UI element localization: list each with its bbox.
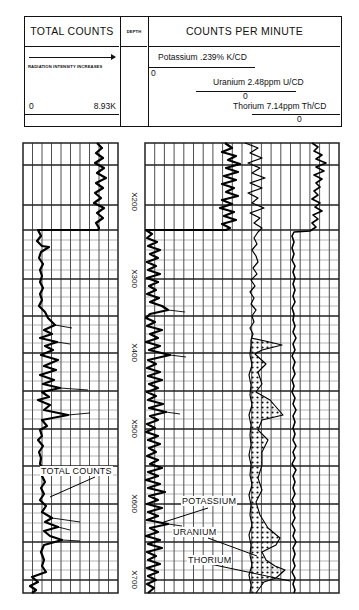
potassium-spikes xyxy=(166,310,186,526)
depth-label-x300: X300 xyxy=(130,264,139,294)
potassium-curve xyxy=(146,143,240,593)
total-counts-grid xyxy=(23,143,118,593)
depth-label-x400: X400 xyxy=(130,338,139,368)
annotation-uranium: URANIUM xyxy=(172,527,217,537)
depth-label-x200: X200 xyxy=(130,187,139,217)
counts-per-minute-grid xyxy=(145,143,339,593)
log-chart xyxy=(0,0,359,610)
total-counts-spikes xyxy=(52,325,90,541)
total-counts-curve xyxy=(30,143,106,593)
depth-label-x500: X500 xyxy=(130,414,139,444)
annotation-potassium: POTASSIUM xyxy=(181,496,237,506)
depth-label-x600: X600 xyxy=(130,489,139,519)
annotation-total-counts: TOTAL COUNTS xyxy=(40,466,113,476)
thorium-curve xyxy=(292,143,326,593)
depth-label-x700: X700 xyxy=(130,565,139,595)
annotation-thorium: THORIUM xyxy=(187,555,232,565)
